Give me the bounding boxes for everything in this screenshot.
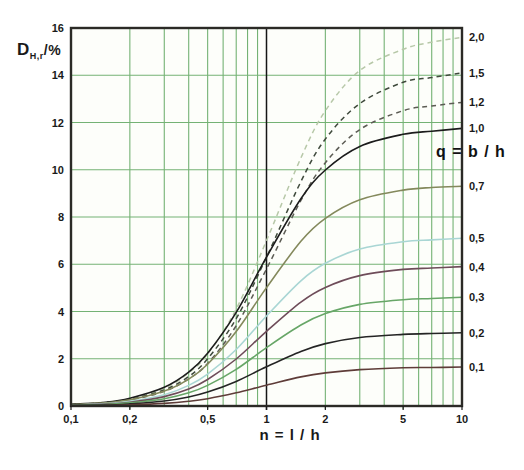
x-axis-title: n = l / h: [250, 426, 330, 443]
x-tick-label-2: 2: [322, 413, 328, 425]
curve-label-0-1: 0,1: [469, 361, 484, 373]
y-tick-label-8: 8: [58, 211, 64, 223]
y-tick-label-2: 2: [58, 353, 64, 365]
y-tick-label-4: 4: [58, 306, 65, 318]
q-ratio-label: q = b / h: [436, 143, 506, 161]
x-tick-label-0-1: 0,1: [63, 413, 78, 425]
x-tick-label-0-5: 0,5: [200, 413, 215, 425]
chart-figure: 2,01,51,21,00,70,50,40,30,20,10,10,20,51…: [0, 0, 524, 470]
y-tick-label-12: 12: [52, 117, 64, 129]
chart-canvas: 2,01,51,21,00,70,50,40,30,20,10,10,20,51…: [0, 0, 524, 470]
y-axis-title: DH,r/%: [17, 40, 61, 61]
curve-label-0-4: 0,4: [469, 261, 485, 273]
curve-label-2-0: 2,0: [469, 31, 484, 43]
y-tick-label-16: 16: [52, 22, 64, 34]
y-axis-unit: /%: [44, 42, 61, 58]
curve-label-0-7: 0,7: [469, 180, 484, 192]
y-tick-label-0: 0: [58, 400, 64, 412]
curve-label-0-2: 0,2: [469, 327, 484, 339]
x-tick-label-1: 1: [263, 413, 269, 425]
y-tick-label-14: 14: [52, 69, 65, 81]
y-tick-label-6: 6: [58, 258, 64, 270]
curve-label-0-3: 0,3: [469, 291, 484, 303]
curve-label-1-0: 1,0: [469, 122, 484, 134]
curve-label-1-2: 1,2: [469, 96, 484, 108]
x-tick-label-0-2: 0,2: [122, 413, 137, 425]
y-axis-symbol: D: [17, 40, 30, 59]
curve-label-0-5: 0,5: [469, 232, 484, 244]
x-tick-label-10: 10: [456, 413, 468, 425]
x-tick-label-5: 5: [400, 413, 406, 425]
curve-label-1-5: 1,5: [469, 67, 484, 79]
y-tick-label-10: 10: [52, 164, 64, 176]
y-axis-subscript: H,r: [30, 51, 44, 61]
